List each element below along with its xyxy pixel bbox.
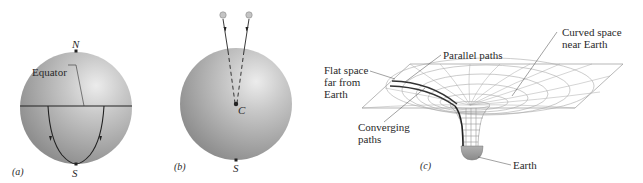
flat-space-label-line1: Flat space	[324, 64, 368, 76]
center-label: C	[238, 104, 245, 116]
path-right-solid	[244, 19, 249, 51]
grid-rings	[386, 58, 594, 115]
parallel-paths-label: Parallel paths	[443, 49, 503, 61]
earth-leader	[478, 157, 511, 165]
panel-c-tag: (c)	[420, 160, 431, 172]
curved-space-label-line2: near Earth	[562, 38, 608, 50]
earth-label: Earth	[513, 159, 537, 171]
funnel	[450, 106, 490, 146]
figure-graphics	[0, 0, 643, 183]
panel-a-tag: (a)	[12, 166, 24, 178]
traveler-right-icon	[246, 12, 252, 18]
equator-label: Equator	[32, 66, 67, 78]
path-left-solid	[223, 19, 228, 51]
spacetime-curvature-figure: N Equator S (a) C S (b) Flat space far f…	[0, 0, 643, 183]
earth-body	[461, 146, 483, 160]
converging-paths-label-line1: Converging	[358, 121, 410, 133]
traveler-left-icon	[220, 12, 226, 18]
panel-b-tag: (b)	[174, 161, 186, 173]
north-label: N	[72, 38, 79, 50]
flat-space-label-line3: Earth	[324, 88, 348, 100]
flat-space-leader	[370, 71, 395, 79]
panel-b	[180, 12, 292, 162]
south-label-b: S	[233, 162, 239, 174]
south-pole-marker	[75, 163, 78, 166]
south-label-a: S	[72, 167, 78, 179]
flat-space-label-line2: far from	[324, 76, 360, 88]
parallel-paths-leader	[405, 55, 441, 82]
curved-space-label-line1: Curved space	[562, 26, 622, 38]
converging-paths-label-line2: paths	[358, 133, 381, 145]
